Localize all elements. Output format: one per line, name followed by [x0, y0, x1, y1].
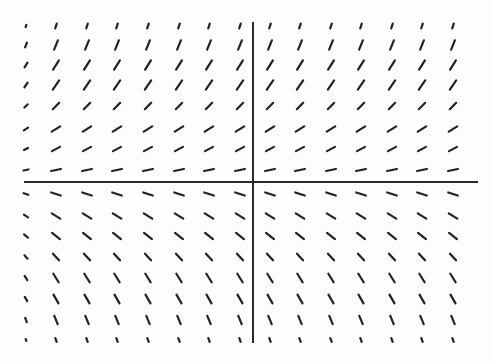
slope-segment: [297, 60, 303, 69]
slope-segment: [24, 169, 29, 170]
slope-segment: [174, 192, 184, 195]
slope-segment: [143, 192, 153, 195]
slope-segment: [268, 295, 273, 304]
slope-segment: [146, 40, 150, 49]
slope-segment: [144, 147, 152, 151]
slope-segment: [113, 126, 121, 131]
slope-segment: [114, 80, 120, 89]
slope-segment: [326, 169, 336, 171]
slope-segment: [24, 104, 27, 107]
slope-segment: [330, 338, 331, 342]
slope-segment: [419, 254, 425, 261]
slope-segment: [52, 126, 60, 131]
slope-segment: [115, 316, 118, 324]
slope-segment: [450, 274, 455, 282]
slope-segment: [297, 80, 303, 89]
slope-segment: [265, 169, 275, 171]
slope-segment: [358, 60, 364, 69]
slope-segment: [237, 254, 243, 261]
slope-segment: [238, 40, 242, 49]
slope-segment: [178, 24, 180, 29]
slope-segment: [419, 80, 425, 89]
slope-segment: [448, 169, 458, 171]
slope-segment: [24, 255, 27, 258]
slope-segment: [388, 213, 396, 218]
slope-segment: [418, 213, 426, 218]
slope-segment: [267, 80, 273, 89]
slope-segment: [236, 147, 244, 151]
slope-segment: [54, 40, 58, 49]
slope-segment: [145, 274, 150, 282]
slope-segment: [115, 295, 120, 304]
slope-segment: [357, 147, 365, 151]
slope-segment: [390, 316, 393, 324]
slope-segment: [85, 295, 90, 304]
slope-segment: [236, 126, 244, 131]
slope-segment: [114, 274, 119, 282]
slope-segment: [266, 147, 274, 151]
slope-segment: [25, 63, 28, 68]
slope-segment: [177, 40, 181, 49]
slope-segment: [207, 295, 212, 304]
slope-segment: [269, 338, 270, 342]
slope-segment: [449, 147, 457, 151]
slope-segment: [327, 126, 335, 131]
slope-segment: [421, 338, 422, 342]
slope-segment: [84, 274, 89, 282]
slope-segment: [207, 316, 210, 324]
slope-segment: [328, 60, 334, 69]
slope-segment: [389, 103, 395, 109]
slope-segment: [52, 213, 60, 218]
slope-segment: [356, 169, 366, 171]
slope-segment: [175, 126, 183, 131]
slope-segment: [114, 103, 120, 109]
slope-segment: [329, 295, 334, 304]
slope-segment: [206, 80, 212, 89]
slope-segment: [53, 274, 58, 282]
slope-segment: [329, 316, 332, 324]
slope-segment: [176, 254, 182, 261]
slope-segment: [144, 213, 152, 218]
slope-segment: [388, 126, 396, 131]
slope-segment: [239, 24, 241, 29]
slope-segment: [24, 128, 28, 131]
slope-segment: [176, 60, 182, 69]
slope-segment: [450, 103, 456, 109]
slope-segment: [235, 169, 245, 171]
slope-segment: [206, 274, 211, 282]
slope-segment: [24, 215, 28, 218]
slope-segment: [238, 295, 243, 304]
slope-segment: [86, 338, 87, 342]
slope-segment: [269, 24, 271, 29]
slope-segment: [450, 80, 456, 89]
slope-segment: [268, 316, 271, 324]
slope-segment: [266, 233, 274, 239]
slope-segment: [387, 192, 397, 195]
slope-segment: [267, 254, 273, 261]
slope-segment: [175, 213, 183, 218]
slope-segment: [298, 316, 301, 324]
slope-segment: [268, 40, 272, 49]
slope-segment: [265, 192, 275, 195]
slope-segment: [205, 213, 213, 218]
slope-segment: [418, 233, 426, 239]
slope-segment: [25, 318, 27, 322]
slope-segment: [112, 192, 122, 195]
slope-segment: [144, 126, 152, 131]
slope-segment: [116, 24, 118, 29]
slope-segment: [359, 316, 362, 324]
slope-segment: [84, 60, 90, 69]
slope-segment: [146, 316, 149, 324]
slope-segment: [174, 169, 184, 171]
slope-segment: [238, 316, 241, 324]
slope-segment: [391, 24, 393, 29]
slope-segment: [327, 213, 335, 218]
slope-segment: [24, 148, 28, 150]
slope-segment: [145, 60, 151, 69]
slope-segment: [267, 103, 273, 109]
slope-segment: [51, 169, 61, 171]
slope-segment: [451, 295, 456, 304]
slope-segment: [357, 233, 365, 239]
slope-segment: [295, 192, 305, 195]
slope-segment: [176, 274, 181, 282]
